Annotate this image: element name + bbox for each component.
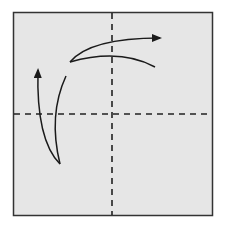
- origami-diagram: [0, 0, 225, 230]
- diagram-svg: [0, 0, 225, 230]
